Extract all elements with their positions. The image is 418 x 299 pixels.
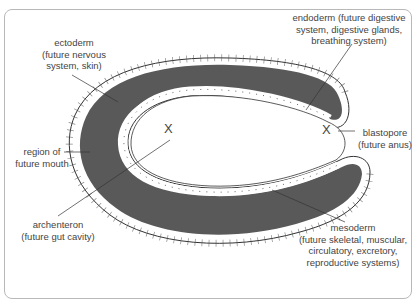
mouth-label: region of future mouth	[12, 146, 72, 169]
archenteron-label: archenteron (future gut cavity)	[12, 219, 104, 242]
ectoderm-label: ectoderm (future nervous system, skin)	[34, 37, 114, 72]
endoderm-label: endoderm (future digestive system, diges…	[284, 12, 414, 47]
blastopore-marker: X	[322, 124, 331, 136]
mesoderm-label: mesoderm (future skeletal, muscular, cir…	[288, 222, 418, 268]
blastopore-label: blastopore (future anus)	[356, 127, 414, 150]
mouth-marker: X	[164, 123, 173, 135]
